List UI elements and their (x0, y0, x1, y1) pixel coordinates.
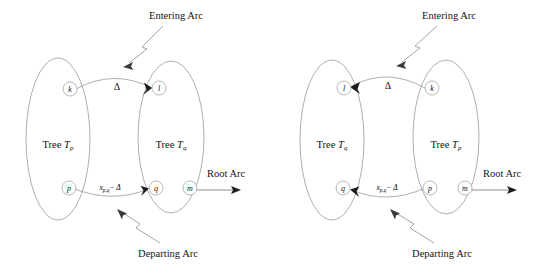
root-arc-label: Root Arc (207, 168, 246, 179)
departing-arc-annotation-pointer (123, 213, 160, 243)
node-k-label: k (68, 85, 72, 94)
node-m-label: m (187, 184, 193, 193)
entering-arc-annotation-pointer (402, 26, 437, 62)
entering-arc-label: Δ (385, 80, 392, 91)
entering-arc-annotation-arrowhead (396, 61, 407, 69)
entering-arc-label: Δ (114, 81, 121, 92)
departing-arc-annotation-arrowhead (117, 209, 127, 220)
tree-label-tq: Tree Tq (156, 139, 187, 152)
departing-arc-label: xp,q− Δ (375, 183, 398, 193)
entering-arc-annotation-pointer (129, 26, 163, 63)
node-m-label: m (462, 184, 468, 193)
node-q-label: q (154, 184, 158, 193)
node-p-label: p (66, 184, 71, 193)
root-arc-label: Root Arc (483, 168, 522, 179)
departing-arc-annotation-pointer (396, 213, 434, 243)
tree-label-tp: Tree Tp (431, 139, 462, 152)
tree-label-tp: Tree Tp (43, 139, 74, 152)
departing-arc-annotation-label: Departing Arc (138, 248, 198, 259)
node-p-label: p (427, 184, 432, 193)
left-panel: Tree Tp Tree Tq k l p q m Δ xp,q− Δ Root… (26, 10, 246, 259)
departing-arc-annotation-label: Departing Arc (412, 248, 472, 259)
entering-arc-annotation-label: Entering Arc (149, 10, 203, 21)
entering-arc-annotation-arrowhead (123, 62, 134, 70)
node-k-label: k (430, 84, 434, 93)
tree-label-tq: Tree Tq (317, 139, 348, 152)
departing-arc-annotation-arrowhead (390, 209, 400, 220)
right-panel: Tree Tq Tree Tp l k q p m Δ xp,q− Δ Root… (300, 10, 522, 259)
entering-arc-annotation-label: Entering Arc (422, 10, 476, 21)
node-q-label: q (341, 184, 345, 193)
network-simplex-pivot-diagram: Tree Tp Tree Tq k l p q m Δ xp,q− Δ Root… (0, 0, 554, 272)
departing-arc-label: xp,q− Δ (98, 183, 121, 193)
